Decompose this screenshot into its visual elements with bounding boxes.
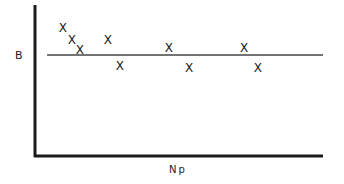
- x-marker-icon: X: [240, 41, 248, 55]
- data-points: XXXXXXXXX: [59, 21, 262, 75]
- x-marker-icon: X: [185, 61, 193, 75]
- axes: [34, 5, 323, 157]
- x-marker-icon: X: [165, 41, 173, 55]
- x-marker-icon: X: [76, 43, 84, 57]
- x-marker-icon: X: [59, 21, 67, 35]
- scatter-chart: XXXXXXXXX: [0, 0, 344, 184]
- x-marker-icon: X: [68, 33, 76, 47]
- x-marker-icon: X: [116, 59, 124, 73]
- y-axis-label: B: [15, 49, 23, 62]
- x-axis-label: Np: [169, 164, 187, 175]
- x-marker-icon: X: [104, 33, 112, 47]
- x-marker-icon: X: [254, 61, 262, 75]
